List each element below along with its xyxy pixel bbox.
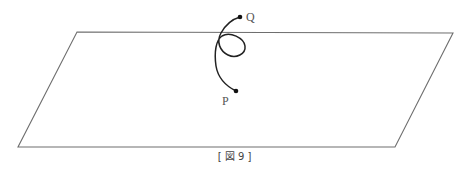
point-q-dot	[238, 15, 243, 20]
space-curve	[215, 17, 245, 91]
point-p-label: P	[222, 95, 229, 107]
figure-canvas	[0, 0, 469, 171]
point-q-label: Q	[246, 11, 255, 23]
figure-caption: [ 図 9 ]	[0, 152, 469, 162]
point-p-dot	[234, 89, 239, 94]
